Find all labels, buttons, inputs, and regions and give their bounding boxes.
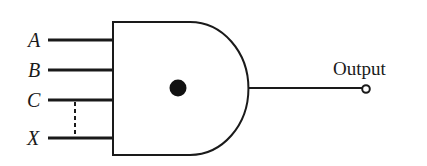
- gate-center-dot-icon: [170, 80, 187, 97]
- output-terminal-icon: [362, 85, 370, 93]
- and-gate-diagram: A B C X Output: [0, 0, 427, 166]
- input-label-c: C: [27, 89, 41, 111]
- input-label-x: X: [26, 127, 40, 149]
- output-label: Output: [333, 58, 387, 79]
- input-label-a: A: [26, 29, 41, 51]
- input-label-b: B: [28, 59, 40, 81]
- input-lines: [48, 40, 113, 138]
